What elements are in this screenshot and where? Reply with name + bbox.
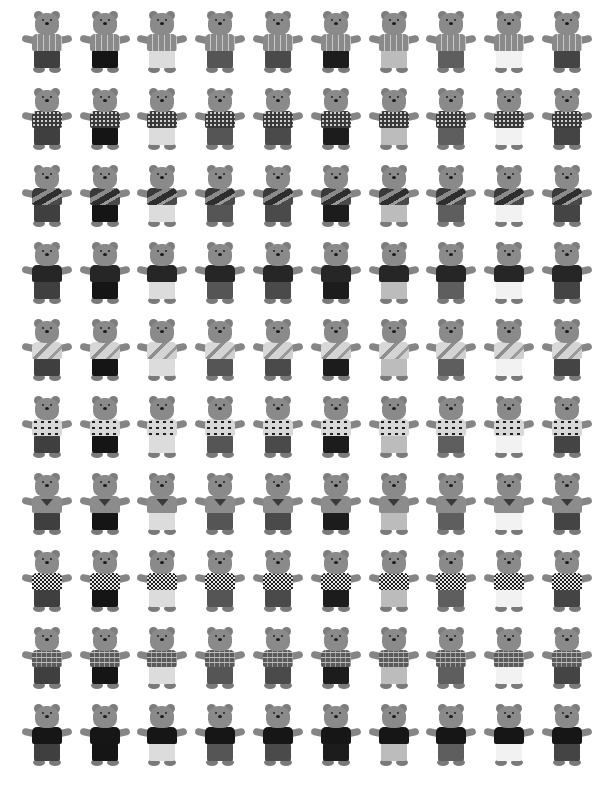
shirt-houndstooth [321,573,351,590]
bear-head [93,706,117,728]
bear-cell [538,8,596,85]
nose [218,22,222,25]
eye [42,635,44,637]
shirt-houndstooth [205,573,235,590]
eye [42,173,44,175]
eye [570,635,572,637]
eye [562,558,564,560]
eye [331,19,333,21]
eye [50,327,52,329]
teddy-bear [136,626,188,698]
teddy-bear [368,472,420,544]
shirt-light-print [436,342,466,359]
eye [165,250,167,252]
eye [100,250,102,252]
nose [392,176,396,179]
eye [504,712,506,714]
teddy-bear [79,241,131,313]
nose [103,484,107,487]
bear-head [150,167,174,189]
teddy-bear [252,241,304,313]
pants-white [496,589,522,607]
pants-medium-grey [438,666,464,684]
eye [454,327,456,329]
bear-head [382,552,406,574]
bear-head [150,90,174,112]
eye [331,481,333,483]
shirt-light-print [205,342,235,359]
eye [223,327,225,329]
eye [157,712,159,714]
nose [218,253,222,256]
nose [218,715,222,718]
bear-cell [480,701,538,778]
teddy-bear [541,318,593,390]
shirt-houndstooth [90,573,120,590]
bear-head [208,552,232,574]
teddy-bear [252,549,304,621]
pants-white [496,127,522,145]
nose [218,561,222,564]
bear-head [93,398,117,420]
shirt-light-print [494,342,524,359]
bear-cell [538,239,596,316]
eye [165,327,167,329]
nose [45,638,49,641]
bear-head [439,13,463,35]
teddy-bear [541,703,593,775]
bear-head [324,629,348,651]
shirt-houndstooth [32,573,62,590]
bear-cell [134,701,192,778]
eye [223,712,225,714]
teddy-bear-grid [18,8,596,778]
eye [223,404,225,406]
bear-head [439,552,463,574]
bear-cell [365,85,423,162]
teddy-bear [425,549,477,621]
eye [157,327,159,329]
nose [160,715,164,718]
eye [397,481,399,483]
shirt-houndstooth [263,573,293,590]
eye [397,635,399,637]
teddy-bear [310,549,362,621]
bear-cell [480,162,538,239]
eye [108,250,110,252]
pants-slate [554,358,580,376]
bear-head [439,475,463,497]
teddy-bear [194,703,246,775]
bear-head [266,167,290,189]
bear-head [35,90,59,112]
bear-cell [538,393,596,470]
bear-cell [538,624,596,701]
eye [165,481,167,483]
eye [100,327,102,329]
nose [507,176,511,179]
pants-dark-grey [34,50,60,68]
teddy-bear [483,10,535,82]
bear-cell [134,162,192,239]
nose [45,253,49,256]
bear-cell [18,316,76,393]
bear-cell [307,470,365,547]
teddy-bear [252,626,304,698]
pants-black-2 [323,589,349,607]
nose [334,176,338,179]
eye [512,19,514,21]
pants-charcoal [265,589,291,607]
eye [215,558,217,560]
nose [334,99,338,102]
teddy-bear [21,626,73,698]
eye [504,558,506,560]
teddy-bear [79,318,131,390]
bear-cell [76,470,134,547]
teddy-bear [368,395,420,467]
shirt-houndstooth [436,573,466,590]
eye [223,481,225,483]
shirt-camo-wave [32,188,62,205]
eye [331,96,333,98]
bear-cell [365,470,423,547]
teddy-bear [252,395,304,467]
eye [339,19,341,21]
bear-cell [365,8,423,85]
